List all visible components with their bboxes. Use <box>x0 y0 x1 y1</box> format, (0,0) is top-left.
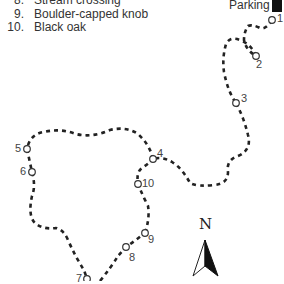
trail-segment-7-9 <box>100 233 145 281</box>
legend-item: 9. Boulder-capped knob <box>0 8 148 22</box>
parking-icon <box>272 0 282 12</box>
waypoint-label-10: 10 <box>142 177 154 189</box>
trail-segment-4-5 <box>27 129 153 159</box>
waypoint-label-7: 7 <box>76 272 82 284</box>
waypoint-marker-6 <box>29 169 36 176</box>
waypoint-label-3: 3 <box>241 92 247 104</box>
legend-item: 10. Black oak <box>0 21 148 35</box>
waypoint-label-6: 6 <box>20 165 26 177</box>
parking-label: Parking <box>229 0 270 12</box>
trail-segment-3-4 <box>153 103 249 186</box>
trail-segment-1-2 <box>244 20 272 56</box>
waypoint-label-8: 8 <box>129 251 135 263</box>
waypoint-label-4: 4 <box>157 147 163 159</box>
waypoint-marker-3 <box>233 100 240 107</box>
north-arrow-icon <box>193 240 218 276</box>
waypoint-label-9: 9 <box>148 233 154 245</box>
waypoint-marker-7 <box>84 276 91 281</box>
trail-segment-9-4 <box>138 159 154 233</box>
waypoint-label-1: 1 <box>277 12 283 24</box>
waypoint-marker-4 <box>150 156 157 163</box>
waypoint-marker-10 <box>135 181 142 188</box>
waypoint-marker-1 <box>269 17 276 24</box>
trail-segment-6-7 <box>30 172 87 279</box>
waypoint-legend: 8. Stream crossing 9. Boulder-capped kno… <box>0 0 148 35</box>
north-label: N <box>199 215 212 233</box>
waypoint-marker-5 <box>24 146 31 153</box>
waypoint-label-5: 5 <box>15 142 21 154</box>
waypoint-label-2: 2 <box>256 58 262 70</box>
waypoint-marker-8 <box>123 244 130 251</box>
trail-segment-2-3 <box>223 39 256 103</box>
